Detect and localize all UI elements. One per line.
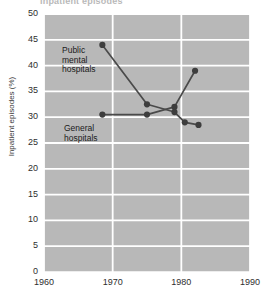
x-tick-1980: 1980 [161,277,201,287]
data-point [182,119,188,125]
data-point [99,112,105,118]
y-tick-35: 35 [8,85,38,95]
y-tick-5: 5 [8,240,38,250]
data-point [192,68,198,74]
y-tick-25: 25 [8,137,38,147]
y-tick-50: 50 [8,8,38,18]
x-tick-1960: 1960 [24,277,64,287]
x-tick-1990: 1990 [230,277,262,287]
data-point [144,101,150,107]
data-point [195,122,201,128]
chart-container: Inpatient episodes Inpatient episodes (%… [0,0,262,299]
general-label-line-2: hospitals [64,134,98,144]
y-tick-20: 20 [8,163,38,173]
data-point [171,104,177,110]
series-label-general-hospitals: General hospitals [64,124,98,143]
x-tick-1970: 1970 [93,277,133,287]
y-tick-10: 10 [8,214,38,224]
public-label-line-3: hospitals [62,65,96,75]
y-tick-30: 30 [8,111,38,121]
plot-area [0,0,262,299]
y-tick-15: 15 [8,189,38,199]
data-point [99,42,105,48]
series-label-public-mental-hospitals: Public mental hospitals [62,46,96,75]
data-point [144,112,150,118]
y-tick-0: 0 [8,266,38,276]
y-tick-45: 45 [8,34,38,44]
y-tick-40: 40 [8,60,38,70]
